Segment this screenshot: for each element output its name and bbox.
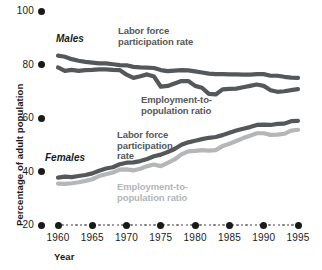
x-axis-dot [236,224,238,226]
series-label-females-lfp-line3: rate [117,151,173,162]
x-axis-dot [268,224,270,226]
x-tick-label-1995: 1995 [281,232,315,243]
x-axis-dot [107,224,109,226]
x-axis-dot [167,224,169,226]
x-tick-label-1985: 1985 [212,232,246,243]
series-label-males-lfp: Labor force participation rate [118,26,193,47]
y-tick-label-100: 100 [8,5,34,16]
y-tick-dot-100 [38,8,45,15]
x-tick-dot-1975 [157,222,164,229]
x-tick-label-1965: 1965 [75,232,109,243]
x-tick-label-1975: 1975 [144,232,178,243]
x-tick-dot-1985 [226,222,233,229]
x-axis-dot [153,224,155,226]
series-label-females-epr-line1: Employment-to- [117,182,188,193]
series-label-males-lfp-line2: participation rate [118,37,193,48]
group-label-females: Females [45,152,85,163]
x-tick-label-1970: 1970 [110,232,144,243]
x-axis-dot [222,224,224,226]
x-axis-dot [291,224,293,226]
series-line-4 [58,130,298,184]
y-axis-title: Percentage of adult population [14,84,25,226]
x-axis-dot [98,224,100,226]
x-tick-dot-1995 [295,222,302,229]
x-axis-dot [144,224,146,226]
series-label-females-lfp-line1: Labor force [117,130,173,141]
y-tick-dot-20 [38,222,45,229]
series-label-males-epr-line2: population ratio [141,106,212,117]
x-axis-dot [75,224,77,226]
x-axis-dot [199,224,201,226]
series-label-females-epr: Employment-to- population ratio [117,182,188,203]
y-tick-dot-40 [38,168,45,175]
series-label-males-epr-line1: Employment-to- [141,95,212,106]
y-tick-dot-60 [38,115,45,122]
series-line-3 [58,121,298,178]
x-tick-dot-1960 [55,222,62,229]
x-tick-label-1990: 1990 [247,232,281,243]
x-tick-dot-1970 [123,222,130,229]
y-tick-label-80: 80 [8,59,34,70]
group-label-males: Males [56,33,84,44]
y-tick-dot-80 [38,61,45,68]
chart-container: 10080604020 1960196519701975198019851990… [0,0,322,270]
x-axis-dot [282,224,284,226]
x-axis-dot [84,224,86,226]
x-axis-dot [213,224,215,226]
series-line-1 [58,56,298,78]
series-label-females-epr-line2: population ratio [117,193,188,204]
x-axis-dot [245,224,247,226]
x-tick-label-1980: 1980 [178,232,212,243]
x-tick-dot-1980 [192,222,199,229]
x-axis-dot [61,224,63,226]
series-label-males-epr: Employment-to- population ratio [141,95,212,116]
x-axis-dot [130,224,132,226]
x-tick-label-1960: 1960 [41,232,75,243]
series-label-females-lfp: Labor force participation rate [117,130,173,162]
x-tick-dot-1965 [89,222,96,229]
series-label-males-lfp-line1: Labor force [118,26,193,37]
x-axis-title: Year [54,251,74,262]
x-axis-dot [176,224,178,226]
x-tick-dot-1990 [260,222,267,229]
